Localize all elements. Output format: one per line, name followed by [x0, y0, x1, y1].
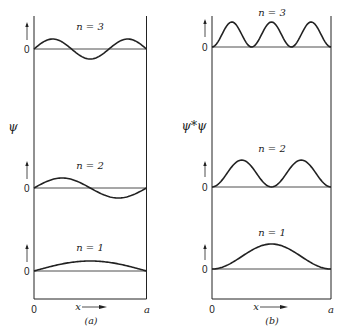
n-label-a-2: n = 2	[76, 160, 104, 171]
panel-b	[203, 16, 331, 309]
zero-label-a-n1: 0	[24, 266, 30, 277]
zero-label-a-n3: 0	[24, 44, 30, 55]
x-start-label-a: 0	[31, 304, 37, 315]
up-arrow-icon	[25, 22, 28, 262]
y-axis-label-b: ψ*ψ	[182, 119, 207, 133]
psi-squared-curve-n3	[212, 22, 331, 47]
x-end-label-b: a	[328, 304, 334, 315]
zero-label-b-n1: 0	[202, 264, 208, 275]
x-end-label-a: a	[144, 304, 150, 315]
zero-label-b-n2: 0	[202, 182, 208, 193]
n-label-b-1: n = 1	[258, 227, 286, 238]
x-variable-label-a: x	[75, 301, 81, 312]
zero-label-b-n3: 0	[202, 42, 208, 53]
n-label-a-1: n = 1	[76, 242, 104, 253]
n-label-b-2: n = 2	[258, 143, 286, 154]
caption-a: (a)	[84, 315, 97, 326]
zero-label-a-n2: 0	[24, 183, 30, 194]
n-label-b-3: n = 3	[258, 7, 286, 18]
x-arrow-icon	[260, 305, 288, 309]
y-axis-label-a: ψ	[8, 120, 18, 134]
x-arrow-icon	[82, 305, 107, 309]
psi-squared-curve-n2	[212, 160, 331, 187]
x-variable-label-b: x	[253, 301, 259, 312]
wavefunction-figure: 0 0 0 n = 3 n = 2 n = 1 ψ 0 x a (a) 0 0 …	[0, 0, 345, 333]
psi-squared-curve-n1	[212, 244, 331, 269]
caption-b: (b)	[265, 315, 279, 326]
psi-curve-n1	[34, 261, 147, 271]
up-arrow-icon	[203, 19, 206, 260]
x-start-label-b: 0	[209, 304, 215, 315]
n-label-a-3: n = 3	[76, 21, 104, 32]
